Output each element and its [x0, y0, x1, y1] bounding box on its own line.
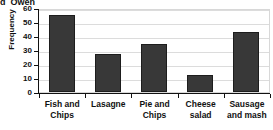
- frequency-bar-chart: Frequency 6050403020100 Fish and ChipsLa…: [0, 7, 273, 130]
- bar-slot: [177, 10, 223, 92]
- bar-slot: [131, 10, 177, 92]
- x-axis-category-label: Cheese salad: [178, 99, 224, 120]
- x-axis-tick-mark: [85, 94, 86, 98]
- bar: [141, 44, 167, 92]
- bar-slot: [223, 10, 269, 92]
- bar-chart-screenshot: d Owen Frequency 6050403020100 Fish and …: [0, 0, 273, 130]
- bar-slot: [85, 10, 131, 92]
- x-axis-tick-mark: [224, 94, 225, 98]
- bar: [49, 15, 75, 92]
- x-axis-tick-marks: [39, 94, 270, 98]
- x-axis-category-label: Sausage and mash: [224, 99, 270, 120]
- y-axis-tick-label: 40: [16, 33, 32, 41]
- y-axis-tick-label: 20: [16, 61, 32, 69]
- x-axis-category-label: Fish and Chips: [39, 99, 85, 120]
- bar: [187, 75, 213, 92]
- bar: [233, 32, 259, 92]
- x-axis-tick-mark: [178, 94, 179, 98]
- y-axis-tick-label: 0: [16, 89, 32, 97]
- bar: [95, 54, 121, 92]
- x-axis-tick-mark: [39, 94, 40, 98]
- question-item-letter: d: [0, 0, 6, 7]
- y-axis-tick-label: 30: [16, 47, 32, 55]
- x-axis-category-labels: Fish and ChipsLasagnePie and ChipsCheese…: [39, 99, 270, 120]
- y-axis-title: Frequency: [7, 0, 16, 61]
- bar-series: [39, 10, 269, 92]
- y-axis-tick-label: 10: [16, 75, 32, 83]
- x-axis-category-label: Lasagne: [85, 99, 131, 120]
- bar-slot: [39, 10, 85, 92]
- y-axis-tick-labels: 6050403020100: [16, 9, 32, 93]
- plot-area: [39, 9, 270, 93]
- x-axis-tick-mark: [270, 94, 271, 98]
- y-axis-tick-label: 60: [16, 5, 32, 13]
- x-axis-category-label: Pie and Chips: [131, 99, 177, 120]
- x-axis-tick-mark: [131, 94, 132, 98]
- y-axis-tick-label: 50: [16, 19, 32, 27]
